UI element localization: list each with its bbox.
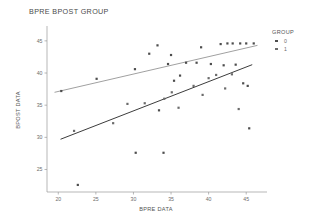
- regression-line-group-1: [61, 65, 253, 140]
- data-point-group-0: [156, 44, 158, 46]
- data-point-group-0: [179, 74, 181, 76]
- x-axis-label: BPRE DATA: [139, 206, 173, 212]
- data-point-group-0: [185, 62, 187, 64]
- y-tick-label: 40: [37, 70, 43, 76]
- data-point-group-1: [202, 94, 204, 96]
- data-point-group-1: [163, 98, 165, 100]
- data-point-group-0: [60, 90, 62, 92]
- data-point-group-1: [112, 122, 114, 124]
- data-point-group-0: [195, 62, 197, 64]
- y-axis-label: BPOST DATA: [15, 91, 21, 129]
- data-point-group-1: [215, 74, 217, 76]
- data-point-group-1: [73, 130, 75, 132]
- data-point-group-0: [135, 152, 137, 154]
- y-tick-label: 30: [37, 134, 43, 140]
- legend: GROUP 0 1: [272, 29, 314, 53]
- legend-item-0[interactable]: 0: [272, 37, 314, 45]
- legend-title: GROUP: [272, 29, 314, 35]
- data-point-group-1: [208, 77, 210, 79]
- data-point-group-0: [253, 42, 255, 44]
- plot-canvas: 2530354045202530354045BPRE DATABPOST DAT…: [0, 0, 316, 222]
- data-point-group-1: [177, 107, 179, 109]
- x-tick-label: 20: [55, 196, 61, 202]
- data-point-group-0: [239, 42, 241, 44]
- data-point-group-1: [238, 108, 240, 110]
- data-point-group-0: [220, 43, 222, 45]
- legend-item-1[interactable]: 1: [272, 45, 314, 53]
- data-point-group-0: [210, 63, 212, 65]
- data-point-group-0: [200, 46, 202, 48]
- data-point-group-0: [248, 127, 250, 129]
- x-tick-label: 25: [93, 196, 99, 202]
- data-point-group-0: [77, 184, 79, 186]
- x-tick-label: 30: [131, 196, 137, 202]
- data-point-group-0: [242, 82, 244, 84]
- data-point-group-0: [134, 68, 136, 70]
- data-point-group-0: [235, 64, 237, 66]
- legend-marker-0-icon: [272, 40, 281, 42]
- data-point-group-0: [245, 42, 247, 44]
- data-point-group-1: [144, 102, 146, 104]
- legend-label-1: 1: [284, 46, 287, 52]
- data-point-group-0: [167, 63, 169, 65]
- data-point-group-0: [226, 42, 228, 44]
- legend-marker-1-icon: [272, 48, 281, 50]
- data-point-group-0: [162, 152, 164, 154]
- x-tick-label: 35: [168, 196, 174, 202]
- data-point-group-0: [170, 54, 172, 56]
- y-tick-label: 35: [37, 102, 43, 108]
- data-point-group-0: [247, 85, 249, 87]
- data-point-group-0: [158, 109, 160, 111]
- data-point-group-1: [231, 73, 233, 75]
- data-point-group-1: [192, 85, 194, 87]
- data-point-group-0: [148, 53, 150, 55]
- data-point-group-0: [232, 42, 234, 44]
- regression-line-group-0: [55, 45, 258, 92]
- y-tick-label: 25: [37, 166, 43, 172]
- y-tick-label: 45: [37, 38, 43, 44]
- data-point-group-0: [173, 80, 175, 82]
- x-tick-label: 40: [206, 196, 212, 202]
- scatter-chart-figure: BPRE BPOST GROUP 2530354045202530354045B…: [0, 0, 316, 222]
- data-point-group-1: [224, 87, 226, 89]
- data-point-group-0: [223, 64, 225, 66]
- legend-label-0: 0: [284, 38, 287, 44]
- data-point-group-0: [96, 78, 98, 80]
- data-point-group-1: [126, 103, 128, 105]
- data-point-group-1: [171, 91, 173, 93]
- x-tick-label: 45: [243, 196, 249, 202]
